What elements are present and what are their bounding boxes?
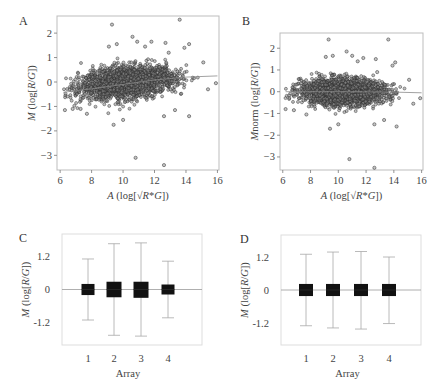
- outlier-point: [376, 71, 379, 74]
- y-axis-label: Mnorm (log[R/G]): [249, 62, 261, 141]
- outlier-point: [136, 40, 139, 43]
- figure-canvas: 6810121416210−1−2−3A (log[√R*G])M (log[R…: [0, 0, 441, 386]
- outlier-point: [63, 109, 66, 112]
- outlier-point: [85, 112, 88, 115]
- outlier-point: [331, 54, 334, 57]
- boxplot-panel-d: 12341.20-1.2ArrayM (log[R/G])D: [239, 232, 421, 379]
- x-tick-label: 14: [389, 175, 400, 186]
- outlier-point: [188, 43, 191, 46]
- x-tick-label: 12: [361, 175, 372, 186]
- x-tick-label: 10: [333, 175, 344, 186]
- outlier-point: [115, 43, 118, 46]
- outlier-point: [131, 35, 134, 38]
- x-tick-label: 6: [58, 175, 63, 186]
- outlier-point: [162, 115, 165, 118]
- y-axis-label: M (log[R/G]): [26, 65, 38, 122]
- x-tick-label: 2: [330, 353, 335, 364]
- outlier-point: [79, 107, 82, 110]
- outlier-point: [419, 97, 422, 100]
- y-tick-label: 1: [47, 52, 52, 63]
- outlier-point: [345, 50, 348, 53]
- x-tick-label: 14: [181, 175, 192, 186]
- outlier-point: [373, 123, 376, 126]
- scatter-panel-b: 6810121416210−1−2−3A (log[√R*G])Mnorm (l…: [242, 14, 427, 202]
- y-tick-label: 1: [270, 64, 275, 75]
- x-tick-label: 8: [308, 175, 313, 186]
- outlier-point: [206, 88, 209, 91]
- panel-letter: B: [242, 14, 250, 28]
- y-tick-label: −1: [41, 101, 52, 112]
- outlier-point: [214, 82, 217, 85]
- outlier-point: [173, 109, 176, 112]
- y-axis-label: M (log[R/G]): [20, 261, 32, 318]
- x-tick-label: 12: [149, 175, 160, 186]
- outlier-point: [183, 46, 186, 49]
- x-tick-label: 2: [111, 353, 116, 364]
- y-tick-label: −2: [264, 130, 275, 141]
- outlier-point: [162, 164, 165, 167]
- y-tick-label: −3: [264, 151, 275, 162]
- y-tick-label: -1.2: [252, 318, 269, 329]
- y-tick-label: 1.2: [37, 251, 50, 262]
- outlier-point: [110, 23, 113, 26]
- outlier-point: [178, 18, 181, 21]
- y-tick-label: 0: [270, 86, 275, 97]
- outlier-point: [395, 125, 398, 128]
- x-axis-label: Array: [116, 368, 141, 379]
- outlier-point: [356, 60, 359, 63]
- outlier-point: [387, 38, 390, 41]
- x-tick-label: 8: [89, 175, 94, 186]
- y-tick-label: -1.2: [33, 317, 50, 328]
- x-tick-label: 4: [165, 353, 171, 364]
- outlier-point: [327, 38, 330, 41]
- y-axis-label: M (log[R/G]): [239, 262, 251, 319]
- outlier-point: [383, 118, 386, 121]
- y-tick-label: 2: [270, 43, 275, 54]
- outlier-point: [328, 127, 331, 130]
- outlier-point: [122, 118, 125, 121]
- x-tick-label: 4: [386, 353, 392, 364]
- y-tick-label: −2: [41, 125, 52, 136]
- outlier-point: [408, 78, 411, 81]
- panel-letter: C: [19, 231, 27, 245]
- outlier-point: [351, 54, 354, 57]
- outlier-point: [324, 55, 327, 58]
- outlier-point: [394, 61, 397, 64]
- y-tick-label: 2: [47, 28, 52, 39]
- outlier-point: [150, 40, 153, 43]
- y-tick-label: 1.2: [256, 252, 269, 263]
- boxplot-panel-c: 12341.20-1.2ArrayM (log[R/G])C: [19, 231, 202, 379]
- outlier-point: [167, 51, 170, 54]
- y-tick-label: 0: [264, 285, 269, 296]
- y-tick-label: −3: [41, 150, 52, 161]
- outlier-point: [305, 113, 308, 116]
- outlier-point: [188, 115, 191, 118]
- outlier-point: [362, 56, 365, 59]
- y-tick-label: 0: [45, 284, 50, 295]
- x-tick-label: 3: [138, 353, 143, 364]
- outlier-point: [373, 166, 376, 169]
- y-tick-label: −1: [264, 108, 275, 119]
- outlier-point: [134, 156, 137, 159]
- x-axis-label: Array: [335, 368, 360, 379]
- x-tick-label: 6: [280, 175, 285, 186]
- x-tick-label: 1: [85, 353, 90, 364]
- x-tick-label: 1: [303, 353, 308, 364]
- x-tick-label: 16: [416, 175, 427, 186]
- outlier-point: [284, 108, 287, 111]
- scatter-panel-a: 6810121416210−1−2−3A (log[√R*G])M (log[R…: [19, 14, 223, 202]
- outlier-point: [164, 41, 167, 44]
- x-axis-label: A (log[√R*G]): [320, 190, 383, 202]
- outlier-point: [412, 102, 415, 105]
- outlier-point: [107, 45, 110, 48]
- outlier-point: [337, 123, 340, 126]
- y-tick-label: 0: [47, 77, 52, 88]
- outlier-point: [112, 123, 115, 126]
- panel-letter: D: [240, 232, 249, 246]
- outlier-point: [71, 107, 74, 110]
- x-tick-label: 3: [358, 353, 363, 364]
- panel-letter: A: [19, 14, 28, 28]
- x-tick-label: 10: [118, 175, 129, 186]
- outlier-point: [292, 109, 295, 112]
- outlier-point: [202, 61, 205, 64]
